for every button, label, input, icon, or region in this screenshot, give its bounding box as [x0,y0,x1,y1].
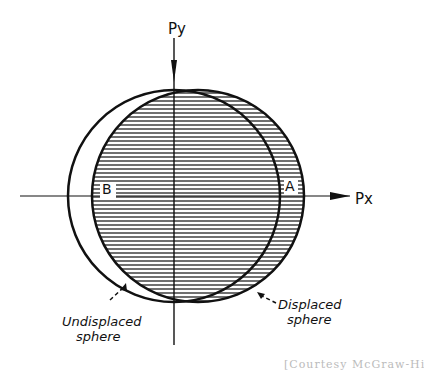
px-label: Px [355,190,373,208]
py-label: Py [168,20,186,38]
px-arrow-icon [330,192,350,200]
figure-caption: [Courtesy McGraw-Hill Book [284,358,424,372]
undisplaced-label-line1: Undisplaced [62,314,142,329]
displaced-label-line1: Displaced [278,297,342,312]
displaced-label-line2: sphere [287,312,332,327]
displaced-annotation: Displaced sphere [257,292,342,327]
undisplaced-label-line2: sphere [76,329,121,344]
region-b-label: B [102,181,112,197]
arrow-icon [257,292,265,299]
py-arrow-icon [171,60,177,82]
region-a-label: A [285,178,295,194]
